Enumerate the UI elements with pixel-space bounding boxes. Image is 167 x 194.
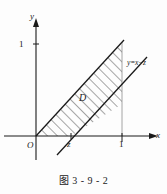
origin-label: O (27, 141, 34, 150)
figure-container: y x O D y=x−z 1 z 1 图 3 - 9 - 2 (0, 0, 167, 194)
region-label-d: D (79, 93, 86, 103)
x-axis-label: x (156, 131, 160, 140)
y-axis-label: y (30, 12, 34, 21)
plot-area: y x O D y=x−z 1 z 1 (0, 0, 167, 168)
figure-caption: 图 3 - 9 - 2 (0, 172, 167, 187)
x-tick-label-1: 1 (119, 140, 124, 149)
y-tick-label-1: 1 (19, 40, 24, 49)
x-tick-label-z: z (67, 140, 71, 149)
line-equation-label: y=x−z (127, 59, 146, 67)
coordinate-plot-svg (0, 0, 167, 168)
